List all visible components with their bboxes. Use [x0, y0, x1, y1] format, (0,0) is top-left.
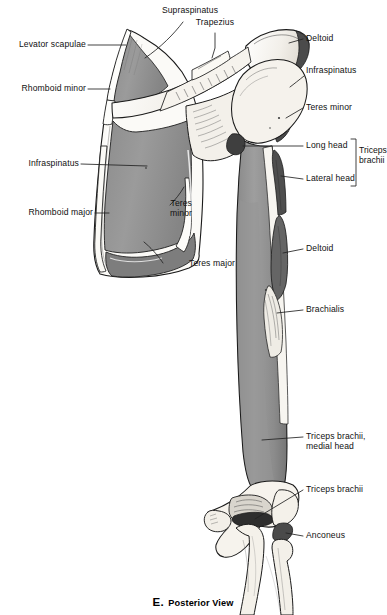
caption-letter: E.: [153, 596, 164, 608]
label-levator-scapulae: Levator scapulae: [0, 40, 86, 50]
label-teres-minor-mid-line2: minor: [150, 209, 192, 219]
medial-epicondyle: [204, 510, 231, 531]
label-deltoid-lower: Deltoid: [306, 244, 333, 254]
label-anconeus: Anconeus: [306, 531, 345, 541]
label-trapezius: Trapezius: [178, 18, 252, 28]
label-infraspinatus-right: Infraspinatus: [306, 66, 357, 76]
label-rhomboid-minor: Rhomboid minor: [0, 84, 86, 94]
label-triceps-brachii-group-line2: brachii: [359, 156, 384, 166]
leader-trapezius: [212, 33, 215, 58]
label-deltoid-top: Deltoid: [306, 34, 333, 44]
infraspinatus-attachment: [104, 121, 191, 253]
figure-caption: E. Posterior View: [0, 592, 386, 610]
label-lateral-head: Lateral head: [306, 174, 355, 184]
caption-text: Posterior View: [168, 598, 233, 608]
label-infraspinatus-left: Infraspinatus: [0, 159, 79, 169]
label-teres-major: Teres major: [165, 259, 235, 269]
label-triceps-medial-head-line2: medial head: [306, 442, 354, 452]
label-triceps-brachii-elbow: Triceps brachii: [306, 485, 363, 495]
label-long-head: Long head: [306, 141, 348, 151]
humeral-head: [232, 59, 307, 143]
label-rhomboid-major: Rhomboid major: [0, 208, 93, 218]
long-head-triceps-attachment: [227, 134, 245, 155]
label-supraspinatus: Supraspinatus: [140, 6, 240, 16]
label-brachialis: Brachialis: [306, 305, 344, 315]
label-teres-minor-right: Teres minor: [306, 103, 352, 113]
